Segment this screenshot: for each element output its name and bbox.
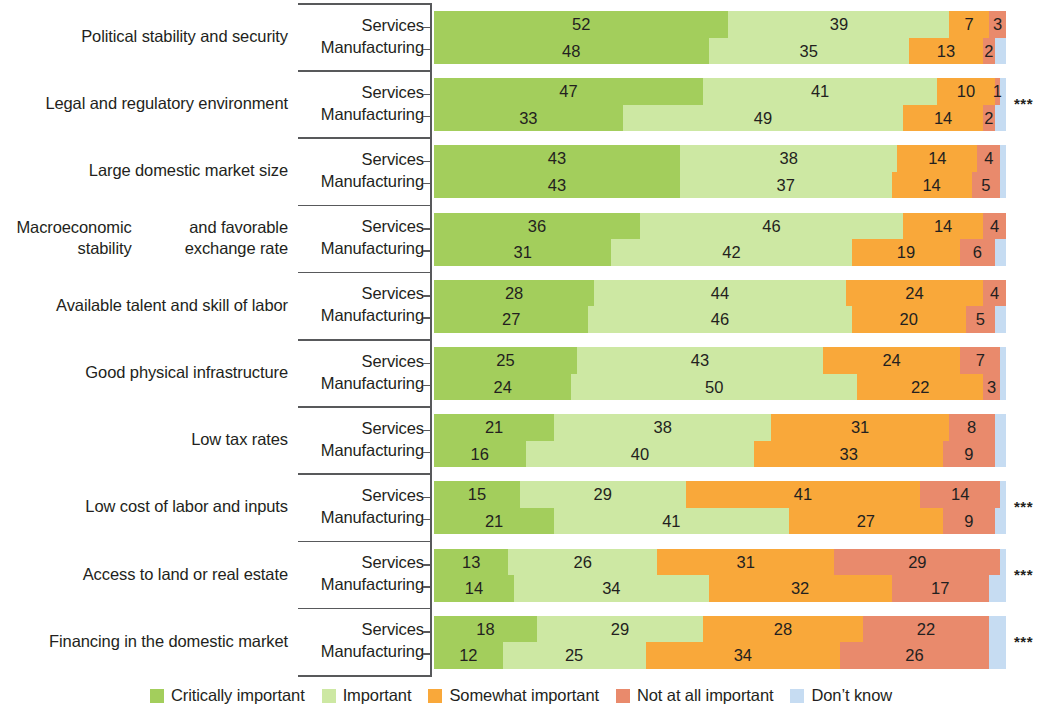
bar-segment[interactable]: 35: [709, 38, 909, 65]
legend-item[interactable]: Important: [322, 686, 412, 705]
bar-segment[interactable]: 31: [771, 414, 948, 441]
bar-segment[interactable]: 5: [972, 172, 1001, 199]
bar-segment[interactable]: 27: [789, 508, 943, 535]
bar-segment[interactable]: [989, 616, 1006, 643]
bar-services[interactable]: 13263129: [434, 549, 1006, 576]
bar-segment[interactable]: 37: [680, 172, 892, 199]
bar-segment[interactable]: 22: [863, 616, 989, 643]
bar-segment[interactable]: [1000, 172, 1006, 199]
bar-services[interactable]: 15294114: [434, 481, 1006, 508]
bar-services[interactable]: 2543247: [434, 347, 1006, 374]
bar-segment[interactable]: 13: [909, 38, 983, 65]
bar-segment[interactable]: 12: [434, 642, 503, 669]
bar-segment[interactable]: 7: [949, 11, 989, 38]
bar-segment[interactable]: [1000, 549, 1006, 576]
bar-segment[interactable]: 28: [703, 616, 863, 643]
bar-manufacturing[interactable]: 4337145: [434, 172, 1006, 199]
bar-segment[interactable]: 4: [983, 280, 1006, 307]
bar-segment[interactable]: 38: [680, 145, 897, 172]
bar-segment[interactable]: 34: [514, 575, 708, 602]
bar-segment[interactable]: 9: [943, 441, 994, 468]
legend-item[interactable]: Don’t know: [790, 686, 892, 705]
bar-segment[interactable]: 41: [686, 481, 921, 508]
bar-segment[interactable]: 32: [709, 575, 892, 602]
bar-segment[interactable]: 20: [852, 306, 966, 333]
bar-segment[interactable]: [995, 441, 1006, 468]
bar-segment[interactable]: [995, 508, 1006, 535]
bar-segment[interactable]: 2: [983, 38, 994, 65]
bar-segment[interactable]: [995, 306, 1006, 333]
bar-segment[interactable]: 24: [846, 280, 983, 307]
bar-segment[interactable]: 16: [434, 441, 526, 468]
bar-segment[interactable]: 13: [434, 549, 508, 576]
bar-segment[interactable]: 4: [983, 213, 1006, 240]
bar-segment[interactable]: 7: [960, 347, 1000, 374]
bar-segment[interactable]: 14: [903, 213, 983, 240]
bar-segment[interactable]: 49: [623, 105, 903, 132]
bar-segment[interactable]: 52: [434, 11, 728, 38]
bar-segment[interactable]: 36: [434, 213, 640, 240]
legend-item[interactable]: Somewhat important: [428, 686, 599, 705]
bar-segment[interactable]: 21: [434, 508, 554, 535]
bar-segment[interactable]: 43: [434, 145, 680, 172]
bar-segment[interactable]: [995, 414, 1006, 441]
bar-segment[interactable]: [989, 642, 1006, 669]
bar-segment[interactable]: 40: [526, 441, 755, 468]
bar-manufacturing[interactable]: 1640339: [434, 441, 1006, 468]
bar-segment[interactable]: [1000, 347, 1006, 374]
bar-manufacturing[interactable]: 2746205: [434, 306, 1006, 333]
bar-manufacturing[interactable]: 14343217: [434, 575, 1006, 602]
bar-segment[interactable]: 39: [728, 11, 949, 38]
bar-manufacturing[interactable]: 12253426: [434, 642, 1006, 669]
bar-segment[interactable]: 4: [977, 145, 1000, 172]
bar-segment[interactable]: 41: [703, 78, 938, 105]
bar-segment[interactable]: [1000, 481, 1006, 508]
bar-services[interactable]: 18292822: [434, 616, 1006, 643]
bar-segment[interactable]: 24: [434, 374, 571, 401]
bar-segment[interactable]: 46: [588, 306, 851, 333]
bar-segment[interactable]: 42: [611, 239, 851, 266]
bar-segment[interactable]: 46: [640, 213, 903, 240]
legend-item[interactable]: Not at all important: [616, 686, 773, 705]
bar-segment[interactable]: 25: [434, 347, 577, 374]
bar-segment[interactable]: 27: [434, 306, 588, 333]
bar-segment[interactable]: 8: [949, 414, 995, 441]
bar-segment[interactable]: 38: [554, 414, 771, 441]
bar-segment[interactable]: 22: [857, 374, 983, 401]
bar-segment[interactable]: 5: [966, 306, 995, 333]
bar-segment[interactable]: 44: [594, 280, 846, 307]
bar-segment[interactable]: 17: [892, 575, 989, 602]
bar-segment[interactable]: 43: [577, 347, 823, 374]
bar-segment[interactable]: 33: [754, 441, 943, 468]
bar-manufacturing[interactable]: 2141279: [434, 508, 1006, 535]
bar-segment[interactable]: 24: [823, 347, 960, 374]
bar-services[interactable]: 2138318: [434, 414, 1006, 441]
bar-segment[interactable]: [1000, 374, 1006, 401]
bar-segment[interactable]: 31: [434, 239, 611, 266]
bar-segment[interactable]: 14: [920, 481, 1000, 508]
bar-services[interactable]: 2844244: [434, 280, 1006, 307]
bar-segment[interactable]: 14: [903, 105, 983, 132]
bar-segment[interactable]: 3: [983, 374, 1000, 401]
bar-segment[interactable]: 14: [897, 145, 977, 172]
bar-segment[interactable]: 28: [434, 280, 594, 307]
bar-segment[interactable]: 50: [571, 374, 857, 401]
bar-manufacturing[interactable]: 2450223: [434, 374, 1006, 401]
bar-segment[interactable]: 10: [937, 78, 994, 105]
bar-segment[interactable]: 9: [943, 508, 994, 535]
bar-segment[interactable]: 26: [508, 549, 657, 576]
bar-services[interactable]: 4741101: [434, 78, 1006, 105]
bar-segment[interactable]: 29: [537, 616, 703, 643]
bar-segment[interactable]: [995, 38, 1006, 65]
bar-segment[interactable]: 26: [840, 642, 989, 669]
bar-segment[interactable]: 25: [503, 642, 646, 669]
bar-segment[interactable]: 18: [434, 616, 537, 643]
bar-segment[interactable]: 48: [434, 38, 709, 65]
bar-services[interactable]: 3646144: [434, 213, 1006, 240]
bar-segment[interactable]: 6: [960, 239, 994, 266]
bar-manufacturing[interactable]: 4835132: [434, 38, 1006, 65]
bar-segment[interactable]: 33: [434, 105, 623, 132]
bar-segment[interactable]: 19: [852, 239, 961, 266]
bar-segment[interactable]: 41: [554, 508, 789, 535]
bar-segment[interactable]: 2: [983, 105, 994, 132]
